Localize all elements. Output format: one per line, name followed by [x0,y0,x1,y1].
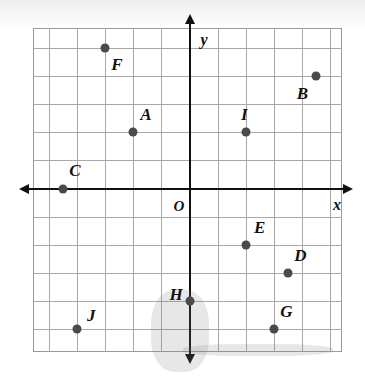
point-label-g: G [280,302,292,322]
point-label-e: E [254,218,265,238]
gridline-horizontal [33,217,342,218]
y-axis-up-arrow-icon [185,14,195,24]
x-axis-line [27,188,348,191]
point-label-a: A [140,105,151,125]
data-point-h [185,296,194,305]
data-point-j [73,325,82,334]
gridline-horizontal [33,48,342,49]
point-label-i: I [241,105,248,125]
data-point-f [101,44,110,53]
data-point-a [129,128,138,137]
data-point-e [241,240,250,249]
scan-smudge [183,344,333,356]
x-axis-left-arrow-icon [19,184,29,194]
gridline-horizontal [33,273,342,274]
point-label-c: C [69,161,80,181]
data-point-g [269,325,278,334]
point-label-h: H [169,285,182,305]
gridline-horizontal [33,104,342,105]
data-point-d [283,268,292,277]
point-label-j: J [87,306,96,326]
data-point-i [241,128,250,137]
data-point-c [59,184,68,193]
coordinate-plane: ABCDEFGHIJ O x y [33,28,342,352]
x-axis-right-arrow-icon [343,184,353,194]
gridline-horizontal [33,76,342,77]
point-label-b: B [297,84,308,104]
point-label-f: F [111,55,122,75]
gridline-horizontal [33,132,342,133]
origin-label: O [174,198,185,215]
point-label-d: D [294,246,306,266]
data-point-b [311,72,320,81]
x-axis-label: x [333,196,341,214]
y-axis-label: y [200,31,207,49]
